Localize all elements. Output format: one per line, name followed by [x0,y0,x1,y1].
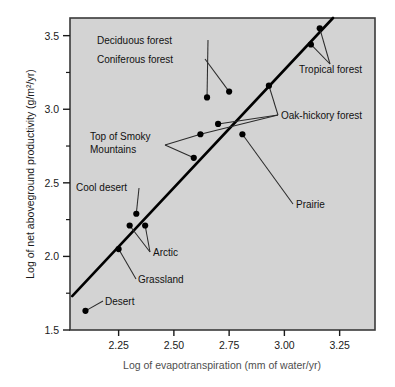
annotation-tropical-forest: Tropical forest [299,64,362,75]
x-tick-label: 2.25 [108,339,129,351]
scatter-plot: 2.252.502.753.003.25 1.52.02.53.03.5 Dec… [0,0,395,387]
annotation-cool-desert: Cool desert [76,182,127,193]
x-tick-label: 2.75 [219,339,240,351]
data-point [142,222,148,228]
data-point [308,41,314,47]
data-point [197,131,203,137]
annotation-arctic: Arctic [153,247,178,258]
annotation-coniferous-forest: Coniferous forest [97,54,173,65]
annotation-deciduous-forest: Deciduous forest [97,35,172,46]
data-point [82,308,88,314]
data-point [266,83,272,89]
data-point [191,155,197,161]
data-point [215,121,221,127]
y-tick-label: 3.5 [44,30,59,42]
x-tick-label: 2.50 [164,339,185,351]
y-tick-label: 2.0 [44,250,59,262]
annotation-top-of-smoky-mountains-line1: Top of Smoky [90,131,151,142]
annotation-oak-hickory-forest: Oak-hickory forest [281,110,362,121]
annotation-grassland: Grassland [138,274,184,285]
data-point [239,131,245,137]
data-point [317,25,323,31]
data-point [127,222,133,228]
y-tick-label: 3.0 [44,103,59,115]
figure-container: 2.252.502.753.003.25 1.52.02.53.03.5 Dec… [0,0,395,387]
x-axis-tick-labels: 2.252.502.753.003.25 [108,339,350,351]
y-axis-tick-labels: 1.52.02.53.03.5 [44,30,59,336]
x-tick-label: 3.25 [329,339,350,351]
annotation-prairie: Prairie [296,199,325,210]
x-axis-label: Log of evapotranspiration (mm of water/y… [123,359,321,371]
y-axis-ticks [63,36,70,330]
y-axis-label: Log of net aboveground productivity (g/m… [24,69,36,279]
data-point [226,88,232,94]
annotation-desert: Desert [105,296,135,307]
y-tick-label: 1.5 [44,324,59,336]
x-tick-label: 3.00 [274,339,295,351]
x-axis-ticks [119,330,340,336]
data-point [116,246,122,252]
annotation-top-of-smoky-mountains-line2: Mountains [90,144,136,155]
data-point [204,94,210,100]
y-tick-label: 2.5 [44,177,59,189]
data-point [133,211,139,217]
